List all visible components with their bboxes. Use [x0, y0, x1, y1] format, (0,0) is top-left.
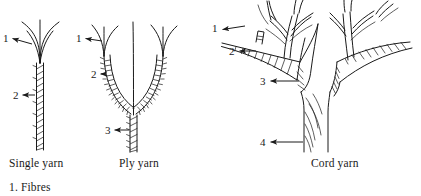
cord-left-cut-stub-hatch	[257, 36, 263, 40]
single-yarn-twist-hatching	[37, 65, 44, 150]
caption-ply-yarn: Ply yarn	[119, 157, 159, 169]
single-yarn-fibres	[22, 20, 59, 63]
cord-left-cut-stub	[256, 31, 264, 44]
caption-cord-yarn: Cord yarn	[311, 157, 359, 169]
cord-right-descend	[330, 62, 340, 96]
callout-cord-4: 4	[260, 136, 303, 148]
cord-trunk-hatch	[305, 94, 322, 152]
cord-right-ply-hatch	[345, 42, 406, 64]
callout-cord-3: 3	[260, 75, 299, 87]
callout-ply-2-number: 2	[91, 68, 97, 80]
callout-cord-4-number: 4	[260, 136, 266, 148]
ply-yarn-drawing: 1 2 3	[76, 22, 177, 152]
cord-yarn-drawing: 1 2 3 4	[212, 0, 412, 152]
caption-single-yarn: Single yarn	[9, 157, 63, 169]
callout-cord-2-number: 2	[229, 45, 235, 57]
callout-ply-1-number: 1	[76, 32, 82, 44]
callout-cord-2: 2	[229, 45, 256, 57]
ply-trunk-barbs	[127, 117, 130, 148]
callout-single-1-number: 1	[3, 32, 9, 44]
callout-cord-1-number: 1	[212, 22, 218, 34]
callout-single-1: 1	[3, 32, 32, 44]
yarn-structure-figure: 1 2	[0, 0, 421, 196]
cord-right-ply-arm	[337, 42, 412, 82]
callout-ply-3-number: 3	[105, 124, 111, 136]
callout-ply-2: 2	[91, 68, 106, 80]
single-yarn-barbs	[33, 66, 37, 140]
ply-right-fibres	[151, 25, 177, 56]
callout-cord-3-number: 3	[260, 75, 266, 87]
cord-trunk	[301, 92, 330, 152]
cord-left-upper-branch	[258, 0, 313, 58]
ply-trunk	[127, 115, 137, 152]
ply-trunk-hatching	[130, 117, 137, 153]
callout-cord-1: 1	[212, 22, 245, 34]
ply-left-arm	[100, 55, 134, 115]
ply-right-arm	[133, 55, 167, 115]
callout-single-2: 2	[13, 89, 35, 101]
callout-single-2-number: 2	[13, 89, 19, 101]
single-yarn-body	[33, 63, 44, 150]
callout-ply-3: 3	[105, 124, 129, 136]
legend-item-1: 1. Fibres	[9, 181, 51, 193]
single-yarn-drawing: 1 2	[3, 20, 59, 150]
ply-centre-fibres	[133, 22, 134, 115]
